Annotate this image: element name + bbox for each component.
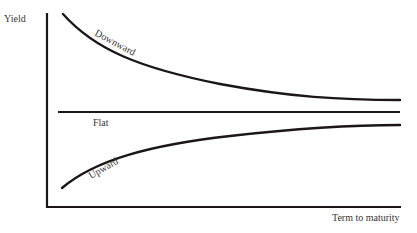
downward-curve — [63, 14, 400, 100]
x-axis-label: Term to maturity — [332, 212, 400, 223]
y-axis-label: Yield — [4, 13, 26, 24]
yield-curve-chart: Yield Term to maturity Downward Flat Upw… — [0, 0, 417, 233]
flat-label: Flat — [93, 117, 109, 128]
chart-canvas: Yield Term to maturity Downward Flat Upw… — [0, 0, 417, 233]
upward-label: Upward — [87, 155, 120, 181]
